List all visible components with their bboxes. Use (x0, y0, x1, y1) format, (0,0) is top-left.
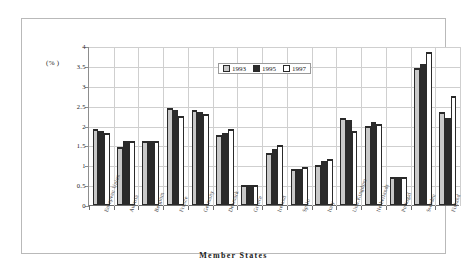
y-axis-tick-label: 4 (82, 43, 86, 50)
bar-group (93, 46, 110, 205)
legend-item[interactable]: 1995 (253, 65, 276, 73)
x-axis-tick (188, 206, 189, 210)
x-axis-tick (312, 206, 313, 210)
x-axis-tick (163, 206, 164, 210)
x-gridline (386, 47, 387, 206)
x-axis-tick (89, 206, 90, 210)
y-axis-tick-label: 3.5 (77, 63, 86, 70)
chart-figure: (% ) 00.511.522.533.54 199319951997 Memb… (0, 0, 467, 270)
y-axis-tick-label: 2 (82, 123, 86, 130)
bar-group (340, 46, 357, 205)
bar (451, 96, 457, 205)
y-axis-tick-label: 1.5 (77, 142, 86, 149)
x-gridline (460, 47, 461, 206)
x-axis-tick (386, 206, 387, 210)
bar-group (315, 46, 332, 205)
x-gridline (163, 47, 164, 206)
bar (426, 52, 432, 205)
y-axis-tick-label: 3 (82, 83, 86, 90)
bar-group (192, 46, 209, 205)
bar-group (142, 46, 159, 205)
x-axis-tick (361, 206, 362, 210)
legend-label: 1997 (292, 65, 306, 73)
x-gridline (312, 47, 313, 206)
legend-item[interactable]: 1997 (283, 65, 306, 73)
legend-swatch-icon (283, 65, 290, 72)
x-axis-tick (138, 206, 139, 210)
bar (178, 116, 184, 205)
legend-label: 1995 (262, 65, 276, 73)
x-axis-tick (287, 206, 288, 210)
legend-swatch-icon (253, 65, 260, 72)
x-gridline (188, 47, 189, 206)
x-gridline (138, 47, 139, 206)
x-axis-tick (411, 206, 412, 210)
x-axis-tick (262, 206, 263, 210)
x-gridline (213, 47, 214, 206)
y-axis-unit-label: (% ) (46, 59, 59, 67)
x-axis-title: Member States (22, 251, 445, 260)
chart-legend: 199319951997 (218, 63, 311, 74)
chart-frame: (% ) 00.511.522.533.54 199319951997 Memb… (21, 18, 446, 254)
y-axis-tick-label: 0 (82, 202, 86, 209)
x-axis-tick (213, 206, 214, 210)
bar (327, 159, 333, 205)
x-gridline (336, 47, 337, 206)
legend-item[interactable]: 1993 (223, 65, 246, 73)
bar-group (414, 46, 431, 205)
bar-group (365, 46, 382, 205)
bar-group (439, 46, 456, 205)
legend-swatch-icon (223, 65, 230, 72)
bar-group (117, 46, 134, 205)
x-axis-tick (237, 206, 238, 210)
x-axis-tick (336, 206, 337, 210)
y-axis-tick-label: 1 (82, 162, 86, 169)
x-axis-tick (114, 206, 115, 210)
x-gridline (411, 47, 412, 206)
bar-group (390, 46, 407, 205)
legend-label: 1993 (232, 65, 246, 73)
bar-group (167, 46, 184, 205)
y-axis-tick-label: 0.5 (77, 182, 86, 189)
y-axis-tick-label: 2.5 (77, 103, 86, 110)
x-gridline (435, 47, 436, 206)
x-axis-tick (435, 206, 436, 210)
